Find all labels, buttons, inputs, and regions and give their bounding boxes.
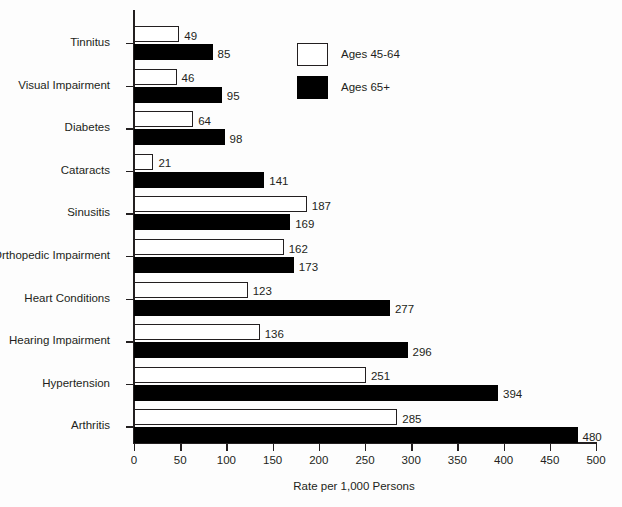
bar-value-label: 85 bbox=[218, 49, 231, 61]
bar bbox=[134, 282, 248, 298]
bar bbox=[134, 69, 177, 85]
x-tick-label: 50 bbox=[174, 455, 187, 467]
y-tick bbox=[126, 43, 134, 44]
category-label: Orthopedic Impairment bbox=[0, 250, 110, 262]
x-tick bbox=[596, 444, 597, 451]
bar-value-label: 296 bbox=[413, 347, 432, 359]
x-tick-label: 450 bbox=[540, 455, 559, 467]
category-label: Hearing Impairment bbox=[9, 335, 110, 347]
bar-value-label: 480 bbox=[583, 432, 602, 444]
x-tick-label: 350 bbox=[448, 455, 467, 467]
x-tick-label: 500 bbox=[586, 455, 605, 467]
category-label: Diabetes bbox=[65, 122, 110, 134]
category-label: Hypertension bbox=[42, 378, 110, 390]
x-tick-label: 300 bbox=[402, 455, 421, 467]
category-label: Sinusitis bbox=[67, 207, 110, 219]
x-tick-label: 200 bbox=[309, 455, 328, 467]
bar bbox=[134, 385, 498, 401]
bar bbox=[134, 367, 366, 383]
bar-chart: TinnitusVisual ImpairmentDiabetesCatarac… bbox=[0, 0, 622, 507]
x-tick bbox=[134, 444, 135, 451]
x-tick-label: 0 bbox=[131, 455, 137, 467]
bar bbox=[134, 87, 222, 103]
x-axis-title-text: Rate per 1,000 Persons bbox=[293, 480, 414, 492]
x-tick bbox=[319, 444, 320, 451]
x-tick-label: 150 bbox=[263, 455, 282, 467]
bar bbox=[134, 196, 307, 212]
category-label: Arthritis bbox=[71, 420, 110, 432]
bar bbox=[134, 427, 578, 443]
bar bbox=[134, 154, 153, 170]
y-tick bbox=[126, 256, 134, 257]
x-tick bbox=[504, 444, 505, 451]
bar-value-label: 162 bbox=[289, 244, 308, 256]
bar-value-label: 394 bbox=[503, 389, 522, 401]
bar-value-label: 277 bbox=[395, 304, 414, 316]
bar-value-label: 123 bbox=[253, 286, 272, 298]
category-label: Heart Conditions bbox=[24, 293, 110, 305]
x-tick-label: 400 bbox=[494, 455, 513, 467]
bar-value-label: 169 bbox=[295, 219, 314, 231]
legend-swatch bbox=[297, 76, 328, 99]
bar bbox=[134, 44, 213, 60]
x-tick bbox=[457, 444, 458, 451]
category-label-group: TinnitusVisual ImpairmentDiabetesCatarac… bbox=[0, 0, 124, 507]
bar bbox=[134, 111, 193, 127]
legend-label: Ages 45-64 bbox=[341, 49, 400, 61]
y-tick bbox=[126, 128, 134, 129]
category-label: Tinnitus bbox=[70, 37, 110, 49]
bar-value-label: 21 bbox=[158, 158, 171, 170]
category-label: Visual Impairment bbox=[18, 80, 110, 92]
legend-swatch bbox=[297, 43, 328, 66]
y-tick bbox=[126, 384, 134, 385]
category-label: Cataracts bbox=[61, 165, 110, 177]
x-tick-label: 250 bbox=[355, 455, 374, 467]
legend: Ages 45-64Ages 65+ bbox=[297, 43, 487, 109]
bar bbox=[134, 239, 284, 255]
bar-value-label: 251 bbox=[371, 371, 390, 383]
bar-value-label: 64 bbox=[198, 116, 211, 128]
bar bbox=[134, 300, 390, 316]
x-axis-title: Rate per 1,000 Persons bbox=[0, 481, 622, 493]
y-tick bbox=[126, 299, 134, 300]
legend-label: Ages 65+ bbox=[341, 82, 390, 94]
bar bbox=[134, 214, 290, 230]
bar bbox=[134, 172, 264, 188]
bar bbox=[134, 324, 260, 340]
legend-item: Ages 65+ bbox=[297, 76, 487, 109]
bar-value-label: 98 bbox=[230, 134, 243, 146]
y-tick bbox=[126, 341, 134, 342]
bar-value-label: 136 bbox=[265, 329, 284, 341]
bar-value-label: 49 bbox=[184, 31, 197, 43]
y-tick bbox=[126, 426, 134, 427]
x-tick bbox=[180, 444, 181, 451]
bar-value-label: 46 bbox=[182, 73, 195, 85]
bar-value-label: 187 bbox=[312, 201, 331, 213]
bar-value-label: 141 bbox=[269, 176, 288, 188]
x-tick bbox=[365, 444, 366, 451]
legend-item: Ages 45-64 bbox=[297, 43, 487, 76]
x-tick-label: 100 bbox=[217, 455, 236, 467]
bar bbox=[134, 342, 408, 358]
bar bbox=[134, 257, 294, 273]
y-tick bbox=[126, 86, 134, 87]
x-tick bbox=[411, 444, 412, 451]
x-tick bbox=[550, 444, 551, 451]
bar bbox=[134, 409, 397, 425]
y-tick bbox=[126, 213, 134, 214]
bar-value-label: 95 bbox=[227, 91, 240, 103]
bar-value-label: 173 bbox=[299, 262, 318, 274]
x-tick bbox=[226, 444, 227, 451]
bar bbox=[134, 26, 179, 42]
x-tick bbox=[273, 444, 274, 451]
bar bbox=[134, 129, 225, 145]
y-tick bbox=[126, 171, 134, 172]
bar-value-label: 285 bbox=[402, 414, 421, 426]
